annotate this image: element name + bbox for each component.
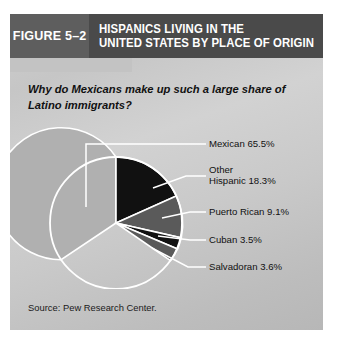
pie-label-other-hispanic-line-2: Hispanic 18.3% <box>209 175 276 186</box>
pie-label-cuban-text: Cuban 3.5% <box>209 234 262 245</box>
figure-number-block: FIGURE 5–2 <box>10 14 89 58</box>
figure-number-underblock <box>10 58 132 72</box>
pie-label-cuban: Cuban 3.5% <box>209 234 262 245</box>
figure-panel: FIGURE 5–2 HISPANICS LIVING IN THE UNITE… <box>10 14 323 330</box>
pie-slice-mexican <box>10 128 116 260</box>
pie-label-puerto-rican: Puerto Rican 9.1% <box>209 206 289 217</box>
figure-title: HISPANICS LIVING IN THE UNITED STATES BY… <box>89 14 323 58</box>
figure-title-line-2: UNITED STATES BY PLACE OF ORIGIN <box>99 36 314 50</box>
pie-label-salvadoran: Salvadoran 3.6% <box>209 261 282 272</box>
pie-label-mexican: Mexican 65.5% <box>209 138 275 149</box>
pie-label-other-hispanic-line-1: Other <box>209 164 276 175</box>
figure-header: FIGURE 5–2 HISPANICS LIVING IN THE UNITE… <box>10 14 323 58</box>
figure-title-line-1: HISPANICS LIVING IN THE <box>99 22 314 36</box>
pie-label-salvadoran-text: Salvadoran 3.6% <box>209 261 282 272</box>
source-note: Source: Pew Research Center. <box>28 302 157 313</box>
figure-question: Why do Mexicans make up such a large sha… <box>28 82 306 113</box>
pie-label-puerto-rican-text: Puerto Rican 9.1% <box>209 206 289 217</box>
figure-number-label: FIGURE 5–2 <box>13 28 87 43</box>
pie-chart: Mexican 65.5% Other Hispanic 18.3% Puert… <box>10 114 323 289</box>
pie-label-other-hispanic: Other Hispanic 18.3% <box>209 164 276 187</box>
pie-label-mexican-text: Mexican 65.5% <box>209 138 275 149</box>
